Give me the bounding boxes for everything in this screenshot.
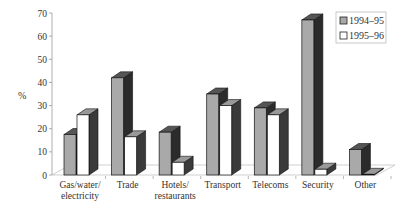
legend-label-1994-95: 1994–95 bbox=[349, 15, 384, 26]
bar bbox=[220, 100, 241, 175]
y-tick-label: 0 bbox=[42, 171, 47, 181]
bar-front bbox=[64, 135, 76, 176]
category-label: Gas/water/ bbox=[59, 180, 101, 190]
category-label: restaurants bbox=[155, 191, 196, 201]
y-tick-label: 20 bbox=[38, 124, 48, 134]
legend: 1994–95 1995–96 bbox=[336, 12, 386, 43]
bars bbox=[64, 14, 383, 175]
category-label: Security bbox=[302, 180, 334, 190]
category-label: Trade bbox=[117, 180, 139, 190]
bar-front bbox=[159, 132, 171, 175]
legend-label-1995-96: 1995–96 bbox=[349, 30, 384, 41]
bar-front bbox=[315, 169, 327, 175]
bar-front bbox=[254, 108, 266, 175]
bar-chart: 010203040506070 Gas/water/electricityTra… bbox=[0, 0, 411, 214]
category-label: Hotels/ bbox=[161, 180, 189, 190]
y-axis-label: % bbox=[18, 90, 26, 101]
bar-front bbox=[267, 115, 279, 175]
bar-front bbox=[220, 106, 232, 175]
bar-front bbox=[207, 94, 219, 175]
y-axis: 010203040506070 bbox=[38, 9, 53, 181]
category-label: Telecoms bbox=[252, 180, 289, 190]
bar-side bbox=[137, 131, 146, 175]
bar-front bbox=[112, 78, 124, 175]
category-labels: Gas/water/electricityTradeHotels/restaur… bbox=[59, 176, 391, 201]
bar bbox=[349, 144, 370, 175]
legend-swatch-1994-95 bbox=[340, 17, 347, 24]
category-label: Other bbox=[355, 180, 377, 190]
y-tick-label: 30 bbox=[38, 101, 48, 111]
bar-front bbox=[302, 20, 314, 175]
bar-front bbox=[172, 162, 184, 175]
bar-side bbox=[89, 109, 98, 175]
y-tick-label: 40 bbox=[38, 78, 48, 88]
bar bbox=[302, 14, 323, 175]
bar-front bbox=[362, 174, 374, 175]
bar bbox=[267, 109, 288, 175]
legend-swatch-1995-96 bbox=[340, 32, 347, 39]
bar-front bbox=[77, 115, 89, 175]
bar-front bbox=[125, 137, 137, 175]
bar-side bbox=[232, 100, 241, 175]
bar-side bbox=[279, 109, 288, 175]
bar bbox=[77, 109, 98, 175]
bar-front bbox=[349, 150, 361, 175]
bar bbox=[125, 131, 146, 175]
y-tick-label: 10 bbox=[38, 147, 48, 157]
bar-side bbox=[314, 14, 323, 175]
y-tick-label: 70 bbox=[38, 9, 48, 19]
category-label: Transport bbox=[204, 180, 241, 190]
category-label: electricity bbox=[61, 191, 99, 201]
y-tick-label: 60 bbox=[38, 32, 48, 42]
y-tick-label: 50 bbox=[38, 55, 48, 65]
